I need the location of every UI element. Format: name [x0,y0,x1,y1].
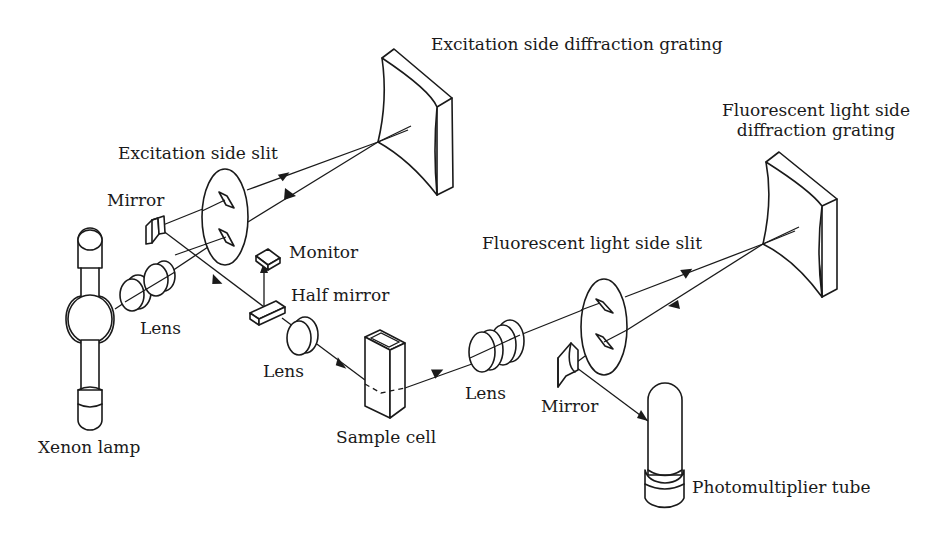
label-xenon-lamp: Xenon lamp [38,437,140,457]
lens-middle-icon [287,317,318,355]
photomultiplier-icon [645,383,684,507]
label-lens-right: Lens [465,383,506,403]
excitation-grating-icon [378,49,453,195]
sample-cell-icon [365,330,405,418]
arrow-icon [668,300,680,309]
label-mirror-right: Mirror [541,396,598,416]
label-fluorescent-grating: Fluorescent light side diffraction grati… [706,100,926,140]
label-sample-cell: Sample cell [336,427,436,447]
fluorescent-slit-icon [581,279,627,375]
label-mirror-left: Mirror [107,190,164,210]
xenon-lamp-icon [66,228,114,430]
lens-left-icon [120,261,175,311]
label-half-mirror: Half mirror [291,285,389,305]
arrow-icon [680,267,694,280]
half-mirror-icon [250,301,285,325]
excitation-slit-icon [175,169,248,265]
label-lens-left: Lens [140,318,181,338]
mirror-right-icon [558,343,578,387]
monitor-icon [256,249,280,270]
lens-right-icon [469,320,524,372]
arrow-icon [278,172,291,182]
fluorescent-grating-icon [763,152,837,297]
label-lens-middle: Lens [263,361,304,381]
label-excitation-slit: Excitation side slit [118,143,278,163]
label-photomultiplier: Photomultiplier tube [692,477,871,497]
label-fluorescent-grating-line1: Fluorescent light side [706,100,926,120]
light-path [115,126,799,421]
arrow-icon [637,410,648,421]
label-excitation-grating: Excitation side diffraction grating [431,34,723,54]
label-fluorescent-slit: Fluorescent light side slit [482,233,702,253]
label-monitor: Monitor [289,242,358,262]
mirror-left-icon [146,216,165,244]
label-fluorescent-grating-line2: diffraction grating [706,120,926,140]
